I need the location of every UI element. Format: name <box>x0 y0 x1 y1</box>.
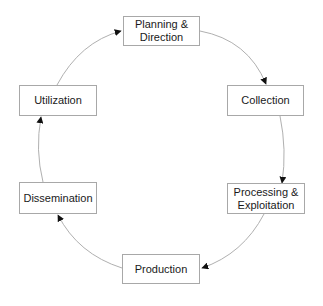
arrow-dissemination-to-utilization <box>38 117 43 182</box>
arrow-planning-to-collection <box>200 31 266 84</box>
node-processing-exploitation: Processing & Exploitation <box>227 183 305 214</box>
node-dissemination: Dissemination <box>19 182 97 214</box>
arrow-utilization-to-planning <box>57 31 121 85</box>
arrow-collection-to-processing <box>280 116 284 183</box>
node-production: Production <box>122 254 200 284</box>
arrow-production-to-dissemination <box>58 215 122 268</box>
arrow-processing-to-production <box>202 214 264 268</box>
node-collection: Collection <box>227 85 304 116</box>
node-utilization: Utilization <box>19 85 97 116</box>
node-planning-direction: Planning & Direction <box>123 16 200 46</box>
intelligence-cycle-diagram: Planning & Direction Collection Processi… <box>0 0 323 306</box>
